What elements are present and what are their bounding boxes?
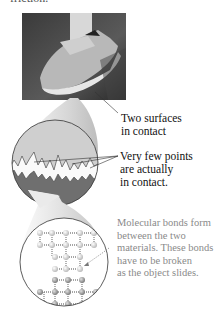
- label-line: Molecular bonds form: [117, 217, 213, 230]
- label-few-points: Very few points are actually in contact.: [120, 150, 193, 189]
- label-line: as the object slides.: [117, 267, 213, 280]
- label-line: in contact: [121, 125, 182, 138]
- shoe-photo: [22, 13, 126, 100]
- label-two-surfaces: Two surfaces in contact: [121, 112, 182, 138]
- label-molecular-bonds: Molecular bonds form between the two mat…: [117, 217, 213, 280]
- label-line: are actually: [120, 163, 193, 176]
- label-line: in contact.: [120, 176, 193, 189]
- label-line: materials. These bonds: [117, 242, 213, 255]
- label-line: between the two: [117, 230, 213, 243]
- molecular-bonds-magnifier: [20, 218, 108, 309]
- label-line: Two surfaces: [121, 112, 182, 125]
- label-line: Very few points: [120, 150, 193, 163]
- label-line: have to be broken: [117, 255, 213, 268]
